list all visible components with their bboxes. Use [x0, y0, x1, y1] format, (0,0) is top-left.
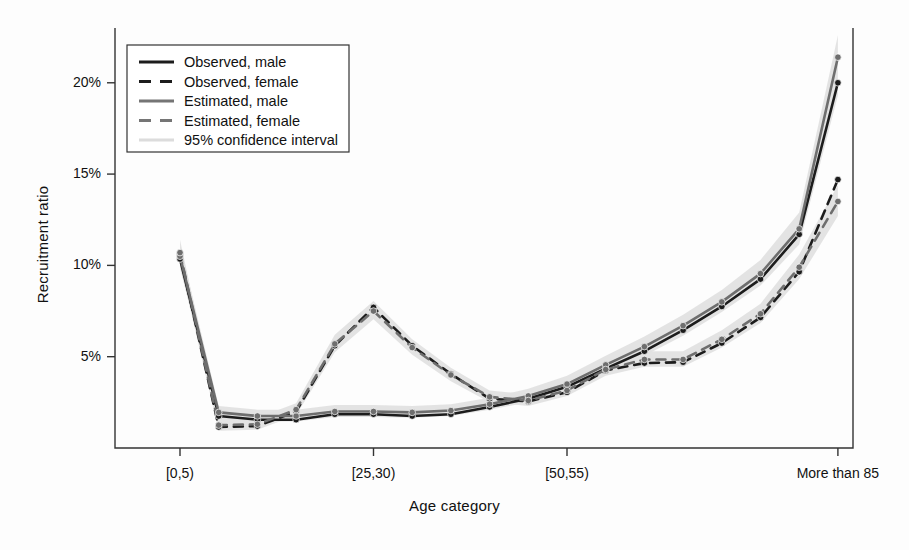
data-point-estimated-male	[215, 409, 222, 416]
data-point-estimated-female	[448, 372, 455, 379]
data-point-estimated-female	[796, 264, 803, 271]
y-tick-label: 15%	[31, 165, 101, 181]
data-point-estimated-female	[835, 198, 842, 205]
data-point-estimated-female	[177, 249, 184, 256]
data-point-estimated-male	[564, 381, 571, 388]
data-point-estimated-female	[215, 422, 222, 429]
data-point-estimated-female	[680, 356, 687, 363]
y-axis-title: Recruitment ratio	[34, 155, 51, 335]
legend-label-estimated-male: Estimated, male	[184, 93, 288, 109]
data-point-estimated-male	[293, 413, 300, 420]
data-point-estimated-male	[254, 413, 261, 420]
data-point-estimated-female	[486, 394, 493, 401]
data-point-estimated-female	[525, 397, 532, 404]
y-tick-label: 20%	[31, 74, 101, 90]
data-point-observed-male	[835, 79, 842, 86]
data-point-estimated-male	[835, 54, 842, 61]
data-point-estimated-female	[332, 341, 339, 348]
data-point-estimated-male	[486, 401, 493, 408]
x-tick-label: More than 85	[758, 465, 909, 481]
legend-label-observed-male: Observed, male	[184, 54, 286, 70]
data-point-estimated-female	[254, 421, 261, 428]
data-point-estimated-male	[641, 343, 648, 350]
data-point-estimated-male	[680, 322, 687, 329]
data-point-estimated-female	[602, 366, 609, 373]
confidence-band-female	[180, 185, 838, 431]
data-point-estimated-female	[757, 310, 764, 317]
data-point-estimated-male	[409, 409, 416, 416]
data-point-estimated-male	[796, 226, 803, 233]
x-tick-label: [0,5)	[100, 465, 260, 481]
data-point-estimated-female	[293, 406, 300, 413]
chart-figure: Observed, maleObserved, femaleEstimated,…	[0, 0, 909, 550]
data-point-estimated-female	[564, 387, 571, 394]
legend-label-observed-female: Observed, female	[184, 74, 298, 90]
series-line-estimated-female	[180, 201, 838, 425]
data-point-estimated-male	[719, 299, 726, 306]
data-point-observed-female	[835, 176, 842, 183]
y-tick-label: 5%	[31, 348, 101, 364]
data-point-estimated-male	[448, 407, 455, 414]
x-axis-title: Age category	[0, 497, 909, 514]
chart-legend: Observed, maleObserved, femaleEstimated,…	[127, 45, 349, 152]
data-point-estimated-male	[757, 270, 764, 277]
data-point-estimated-female	[719, 336, 726, 343]
x-tick-label: [50,55)	[487, 465, 647, 481]
data-point-estimated-female	[641, 356, 648, 363]
data-point-estimated-female	[370, 308, 377, 315]
y-tick-label: 10%	[31, 256, 101, 272]
data-point-estimated-male	[370, 408, 377, 415]
data-point-estimated-male	[332, 408, 339, 415]
x-tick-label: [25,30)	[294, 465, 454, 481]
data-point-estimated-female	[409, 344, 416, 351]
series-line-observed-female	[180, 180, 838, 427]
legend-label-95-confidence-interval: 95% confidence interval	[184, 132, 338, 148]
legend-label-estimated-female: Estimated, female	[184, 113, 300, 129]
